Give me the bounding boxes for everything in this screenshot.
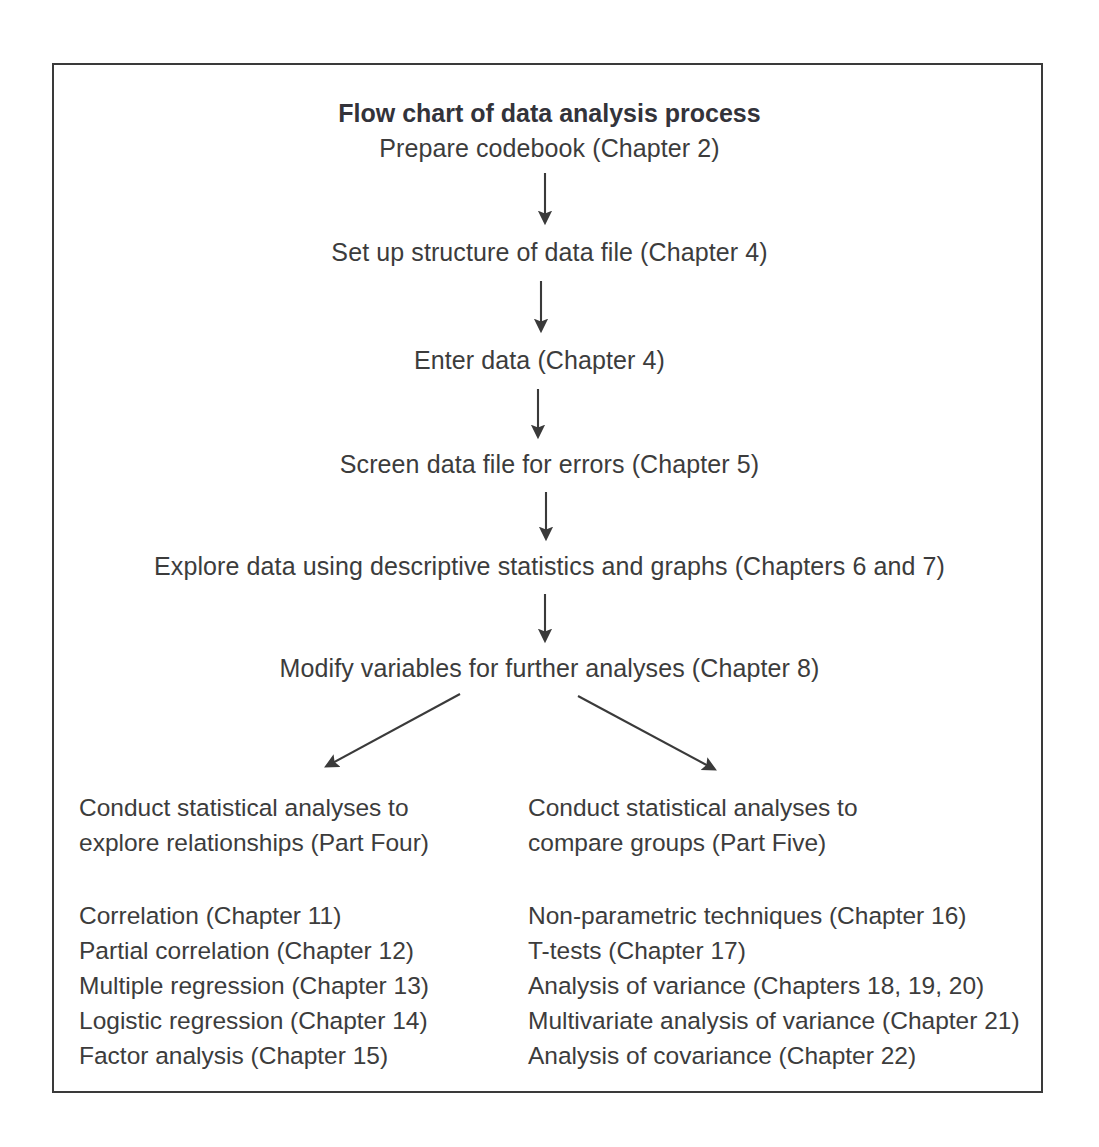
branch-explore-relationships: Conduct statistical analyses to explore … [79, 790, 429, 1073]
list-item: Multivariate analysis of variance (Chapt… [528, 1003, 1020, 1038]
list-item: Logistic regression (Chapter 14) [79, 1003, 429, 1038]
list-item: T-tests (Chapter 17) [528, 933, 1020, 968]
page-title: Flow chart of data analysis process [0, 98, 1099, 128]
branch-left-heading-line-1: Conduct statistical analyses to [79, 790, 429, 825]
branch-left-heading: Conduct statistical analyses to explore … [79, 790, 429, 860]
branch-left-list: Correlation (Chapter 11) Partial correla… [79, 898, 429, 1073]
branch-right-list: Non-parametric techniques (Chapter 16) T… [528, 898, 1020, 1073]
list-item: Non-parametric techniques (Chapter 16) [528, 898, 1020, 933]
branch-right-heading: Conduct statistical analyses to compare … [528, 790, 1020, 860]
list-item: Correlation (Chapter 11) [79, 898, 429, 933]
branch-right-heading-line-1: Conduct statistical analyses to [528, 790, 1020, 825]
list-item: Analysis of covariance (Chapter 22) [528, 1038, 1020, 1073]
branch-left-heading-line-2: explore relationships (Part Four) [79, 825, 429, 860]
flow-step-modify-variables: Modify variables for further analyses (C… [0, 653, 1099, 683]
branch-compare-groups: Conduct statistical analyses to compare … [528, 790, 1020, 1073]
flow-step-explore-data: Explore data using descriptive statistic… [0, 551, 1099, 581]
flow-step-set-up-structure: Set up structure of data file (Chapter 4… [0, 237, 1099, 267]
flow-step-enter-data: Enter data (Chapter 4) [0, 345, 1089, 375]
list-item: Analysis of variance (Chapters 18, 19, 2… [528, 968, 1020, 1003]
list-item: Partial correlation (Chapter 12) [79, 933, 429, 968]
list-item: Factor analysis (Chapter 15) [79, 1038, 429, 1073]
branch-right-heading-line-2: compare groups (Part Five) [528, 825, 1020, 860]
flow-step-prepare-codebook: Prepare codebook (Chapter 2) [0, 133, 1099, 163]
list-item: Multiple regression (Chapter 13) [79, 968, 429, 1003]
flow-step-screen-data-file: Screen data file for errors (Chapter 5) [0, 449, 1099, 479]
